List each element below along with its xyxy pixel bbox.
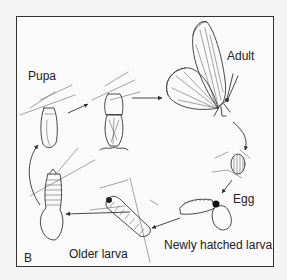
pupa-chrysalis-icon — [20, 85, 75, 148]
newly-hatched-larva-icon — [180, 199, 231, 230]
arrow-older-to-prepupa — [66, 212, 130, 214]
butterfly-adult-icon — [167, 22, 238, 116]
prepupa-icon — [30, 148, 95, 240]
label-older-larva: Older larva — [69, 248, 128, 260]
emerging-adult-icon — [92, 72, 140, 150]
panel-label: B — [24, 252, 32, 264]
label-egg: Egg — [233, 193, 254, 205]
arrow-hatched-to-older — [152, 218, 180, 228]
arrow-pupa-to-emerging — [68, 104, 88, 113]
arrow-adult-to-egg — [233, 122, 246, 150]
egg-icon — [212, 150, 250, 178]
label-pupa: Pupa — [28, 70, 56, 82]
label-newly-hatched-larva: Newly hatched larva — [164, 239, 272, 251]
label-adult: Adult — [227, 50, 254, 62]
arrow-prepupa-to-pupa — [29, 145, 40, 205]
arrow-egg-to-hatched — [222, 180, 232, 193]
